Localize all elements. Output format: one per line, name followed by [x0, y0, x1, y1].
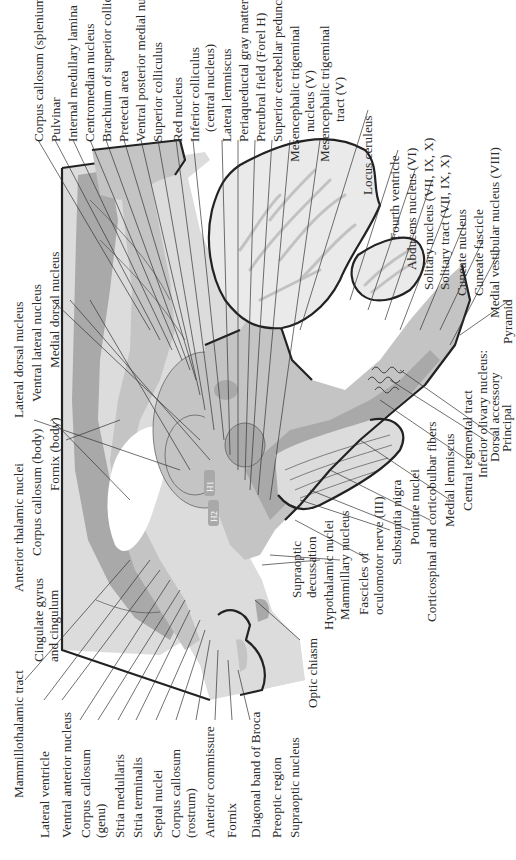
label-superior-cerebellar-peduncle: Superior cerebellar peduncle: [271, 0, 285, 142]
label-hypothalamic-nuclei: Hypothalamic nuclei: [322, 520, 336, 630]
label-oculomotor-nerve: oculomotor nerve (III): [372, 496, 386, 615]
label-cuneate-nucleus: Cuneate nucleus: [455, 209, 469, 296]
label-fascicles-of: Fascicles of: [357, 552, 371, 615]
label-preoptic-region: Preoptic region: [270, 757, 284, 838]
label-inferior-colliculus-sub: (central nucleus): [203, 44, 217, 132]
label-centromedian-nucleus: Centromedian nucleus: [83, 24, 97, 142]
label-supraoptic-decussation: Supraoptic: [290, 541, 304, 598]
label-red-nucleus: Red nucleus: [171, 77, 185, 142]
label-solitary-tract: Solitary tract (VII, IX, X): [438, 155, 452, 291]
label-corpus-callosum-body: Corpus callosum (body): [30, 429, 44, 556]
label-mesencephalic-trigeminal-tract-sub: tract (V): [333, 77, 347, 122]
h2-marker: H2: [209, 511, 219, 522]
label-substantia-nigra: Substantia nigra: [390, 480, 404, 565]
label-medial-dorsal-nucleus: Medial dorsal nucleus: [48, 252, 62, 368]
label-abducens-nucleus: Abducens nucleus (VI): [405, 148, 419, 270]
label-lateral-dorsal-nucleus: Lateral dorsal nucleus: [12, 302, 26, 418]
label-mammillothalamic-tract: Mammillothalamic tract: [12, 670, 26, 798]
label-fourth-ventricle: Fourth ventricle: [388, 155, 402, 240]
label-septal-nuclei: Septal nuclei: [151, 770, 165, 838]
label-principal: Principal: [500, 404, 514, 452]
label-ventral-lateral-nucleus: Ventral lateral nucleus: [30, 284, 44, 402]
label-pyramid: Pyramid: [501, 299, 515, 344]
label-corpus-callosum-rostrum-sub: (rostrum): [184, 788, 198, 838]
label-superior-colliculus: Superior colliculus: [151, 42, 165, 142]
label-corpus-callosum-genu-sub: (genu): [94, 804, 108, 838]
label-medial-vestibular-nucleus: Medial vestibular nucleus (VIII): [488, 147, 502, 318]
label-fornix-body: Fornix (body): [48, 417, 62, 491]
label-cingulate-gyrus: Cingulate gyrus: [32, 578, 46, 662]
label-stria-terminalis: Stria terminalis: [131, 757, 145, 838]
label-ventral-anterior-nucleus: Ventral anterior nucleus: [60, 712, 74, 838]
label-cuneate-fascicle: Cuneate fascicle: [472, 209, 486, 296]
label-supraoptic-decussation-sub: decussation: [305, 536, 319, 598]
label-ventral-posterior-medial-nucleus: Ventral posterior medial nucleus: [134, 0, 148, 142]
label-diagonal-band-of-broca: Diagonal band of Broca: [249, 712, 263, 838]
label-pontine-nuclei: Pontine nuclei: [408, 469, 422, 545]
label-anterior-thalamic-nuclei: Anterior thalamic nuclei: [12, 463, 26, 592]
label-corticospinal-corticobulbar-fibers: Corticospinal and corticobulbar fibers: [425, 422, 439, 622]
label-pretectal-area: Pretectal area: [117, 71, 131, 142]
label-solitary-nucleus: Solitary nucleus (VII, IX, X): [422, 138, 436, 290]
label-corpus-callosum-splenium: Corpus callosum (splenium): [32, 0, 46, 142]
label-supraoptic-nucleus: Supraoptic nucleus: [288, 737, 302, 838]
label-mammillary-nucleus: Mammillary nucleus: [338, 510, 352, 620]
label-brachium-superior-colliculus: Brachium of superior colliculus: [100, 0, 114, 142]
label-central-tegmental-tract: Central tegmental tract: [461, 390, 475, 511]
label-internal-medullary-lamina: Internal medullary lamina: [66, 5, 80, 142]
label-mesencephalic-trigeminal-nucleus-sub: nucleus (V): [303, 70, 317, 132]
label-and-cingulum: and cingulum: [47, 590, 61, 662]
h1-marker: H1: [205, 481, 215, 492]
label-corpus-callosum-genu: Corpus callosum: [79, 749, 93, 838]
label-medial-lemniscus: Medial lemniscus: [443, 434, 457, 527]
label-optic-chiasm: Optic chiasm: [306, 638, 320, 708]
label-stria-medullaris: Stria medullaris: [113, 754, 127, 838]
label-pulvinar: Pulvinar: [49, 97, 63, 142]
label-mesencephalic-trigeminal-tract: Mesencephalic trigeminal: [318, 25, 332, 162]
label-locus-ceruleus: Locus ceruleus: [361, 116, 375, 195]
label-prerubral-field: Prerubral field (Forel H): [254, 13, 268, 142]
label-lateral-ventricle: Lateral ventricle: [38, 751, 52, 838]
label-anterior-commissure: Anterior commissure: [203, 726, 217, 838]
label-inferior-colliculus: Inferior colliculus: [188, 47, 202, 142]
label-corpus-callosum-rostrum: Corpus callosum: [169, 749, 183, 838]
label-periaqueductal-gray-matter: Periaqueductal gray matter: [237, 0, 251, 142]
label-fornix: Fornix: [225, 803, 239, 838]
label-lateral-lemniscus: Lateral lemniscus: [220, 49, 234, 142]
label-mesencephalic-trigeminal-nucleus: Mesencephalic trigeminal: [288, 25, 302, 162]
